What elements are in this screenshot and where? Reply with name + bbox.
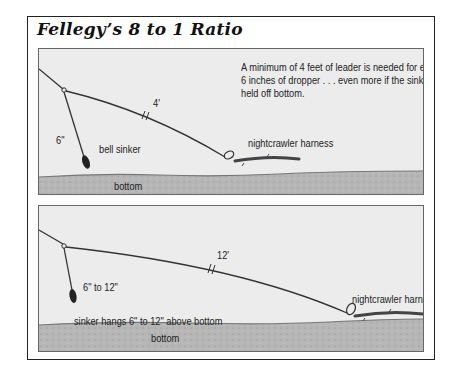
leader-line [66, 91, 225, 157]
panel-dropper-on-bottom: A minimum of 4 feet of leader is needed … [38, 48, 424, 195]
sinker-label: sinker hangs 6" to 12" above bottom [74, 315, 222, 327]
bottom-label: bottom [114, 180, 142, 192]
leader-line [66, 247, 347, 313]
ratio-note: A minimum of 4 feet of leader is needed … [241, 61, 424, 100]
leader-length-label: 4' [153, 97, 160, 109]
figure-title: Fellegy’s 8 to 1 Ratio [37, 19, 243, 39]
nightcrawler-shape [355, 312, 423, 316]
panel-sinker-off-bottom: 6" to 12" 12' sinker hangs 6" to 12" abo… [38, 205, 424, 352]
harness-label: nightcrawler harness [352, 293, 424, 305]
sinker-label: bell sinker [99, 143, 141, 155]
dropper-line [64, 92, 84, 157]
bottom-label: bottom [151, 332, 179, 344]
nightcrawler-shape [235, 157, 299, 161]
dropper-length-label: 6" to 12" [83, 281, 118, 293]
bell-sinker-shape [80, 154, 91, 170]
dropper-line [64, 248, 72, 290]
dropper-length-label: 6" [56, 134, 64, 146]
harness-label: nightcrawler harness [248, 137, 333, 149]
sinker-shape [68, 288, 77, 303]
leader-length-label: 12' [217, 249, 229, 261]
rig-illustration-bottom [39, 206, 424, 352]
